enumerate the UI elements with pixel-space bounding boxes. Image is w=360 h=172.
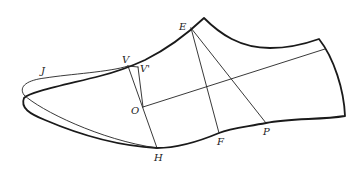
label-F: F bbox=[216, 136, 225, 147]
label-H: H bbox=[153, 152, 163, 163]
label-V: V bbox=[122, 54, 131, 65]
heel-axis-line bbox=[143, 49, 325, 107]
label-J: J bbox=[39, 65, 46, 76]
label-O: O bbox=[131, 105, 139, 116]
label-P: P bbox=[262, 126, 270, 137]
shoe-upper-outline bbox=[23, 18, 345, 148]
label-V-prime: V' bbox=[140, 63, 150, 74]
shoe-last-diagram: J V V' O H E F P bbox=[0, 0, 360, 172]
line-E-F bbox=[191, 28, 219, 133]
label-E: E bbox=[178, 21, 187, 32]
line-E-P bbox=[191, 28, 266, 123]
